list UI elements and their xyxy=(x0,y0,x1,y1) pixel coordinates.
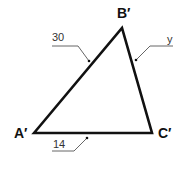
side-label-bc: y xyxy=(167,33,173,45)
triangle-shape xyxy=(34,28,152,133)
leader-dot-ab xyxy=(88,60,91,63)
leader-dot-bc xyxy=(135,59,138,62)
vertex-label-c: C′ xyxy=(158,125,172,141)
side-label-ab: 30 xyxy=(52,31,64,43)
leader-line-bc xyxy=(136,46,173,60)
side-label-ac: 14 xyxy=(53,138,65,150)
vertex-label-b: B′ xyxy=(117,5,131,21)
vertex-label-a: A′ xyxy=(14,125,28,141)
triangle-diagram: 30 y 14 A′ B′ C′ xyxy=(0,0,184,171)
leader-dot-ac xyxy=(86,137,89,140)
leader-line-ab xyxy=(52,46,89,61)
